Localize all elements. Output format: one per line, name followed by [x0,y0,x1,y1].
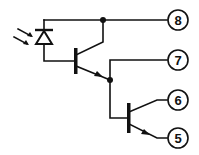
wire-pin7 [110,60,167,80]
pin-6: 6 [168,90,188,110]
q1-collector [76,20,103,55]
circuit-diagram: 8 7 6 5 [0,0,199,155]
photodiode [35,30,53,44]
junction-dot [107,77,113,83]
wire-q2-base [110,80,128,118]
q1-emitter-arrow-icon [94,71,103,77]
wire-diode-to-base [44,44,75,61]
q1-emitter [76,66,110,80]
pin-5: 5 [168,128,188,148]
q2-collector [129,100,167,112]
pin-label: 7 [174,53,181,68]
pin-label: 5 [174,131,181,146]
q2-base [127,103,131,133]
pin-8: 8 [168,10,188,30]
junction-dot [100,17,106,23]
q1-base [74,48,78,74]
q2-emitter [129,124,167,138]
pin-label: 8 [174,13,181,28]
pin-label: 6 [174,93,181,108]
pin-7: 7 [168,50,188,70]
